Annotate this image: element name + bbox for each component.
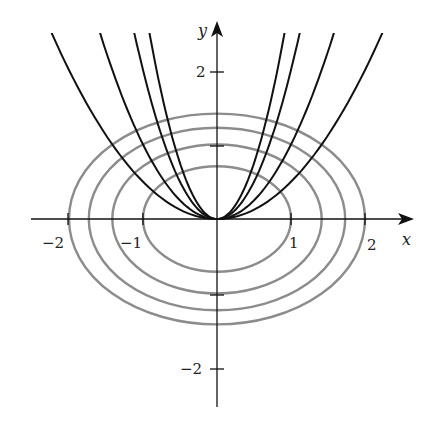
x-tick-label-neg2: −2 [42, 234, 64, 252]
y-axis-label: y [197, 21, 208, 40]
x-tick-label-1: 1 [289, 234, 299, 252]
y-tick-label-2: 2 [196, 63, 206, 81]
x-tick-label-neg1: −1 [120, 234, 142, 252]
diagram-canvas: −2 −1 1 2 2 −2 x y [0, 0, 435, 428]
x-axis-label: x [402, 230, 411, 249]
x-tick-label-2: 2 [367, 236, 377, 254]
orthogonal-trajectories-plot: −2 −1 1 2 2 −2 x y [0, 0, 435, 428]
y-tick-label-neg2: −2 [180, 360, 202, 378]
